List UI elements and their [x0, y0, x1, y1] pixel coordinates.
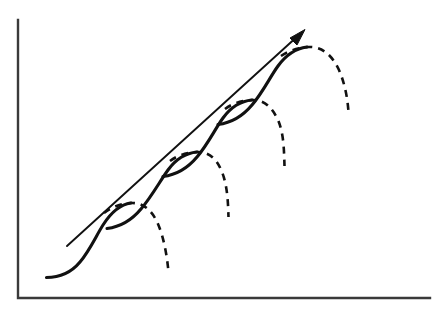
technology-s-curve-figure: Line diagram showing four successive ove…: [0, 0, 437, 316]
chart-background: [0, 0, 437, 316]
s-curve-chart-canvas: [0, 0, 437, 316]
